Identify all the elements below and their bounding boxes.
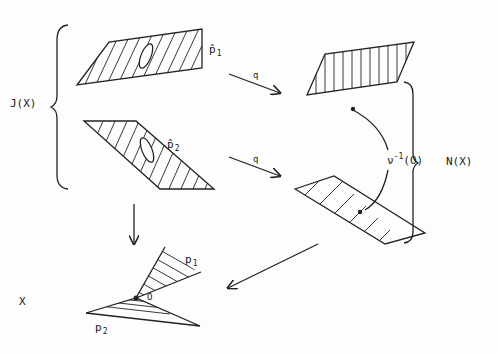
label-p1-hat: p̂1 (209, 44, 221, 55)
label-nu-inverse: ν-1(O) (387, 155, 423, 166)
brace-jx (51, 25, 68, 189)
label-p2-hat: p̂2 (167, 139, 179, 150)
label-origin: O (147, 293, 152, 302)
surface-p2-hat (68, 110, 240, 200)
surface-nx-bottom (278, 158, 426, 306)
diagram-canvas: J(X) N(X) X q q p̂1 p̂2 p1 p2 O ν-1(O) (0, 0, 498, 354)
label-p2: p2 (95, 322, 107, 333)
label-p1: p1 (185, 254, 197, 265)
label-nx: N(X) (446, 156, 473, 167)
label-q-bottom: q (253, 155, 258, 164)
curve-nu-inverse (353, 110, 388, 150)
preimage-point-top (351, 107, 355, 111)
diagram-drawing (0, 0, 498, 354)
surface-p1-hat (69, 20, 225, 95)
label-q-top: q (253, 71, 258, 80)
surface-nx-top (307, 40, 414, 100)
origin-point (134, 296, 139, 301)
arrow-nx-to-x (228, 244, 318, 288)
preimage-point-bottom (358, 210, 362, 214)
label-x: X (19, 296, 26, 307)
label-jx: J(X) (10, 98, 37, 109)
